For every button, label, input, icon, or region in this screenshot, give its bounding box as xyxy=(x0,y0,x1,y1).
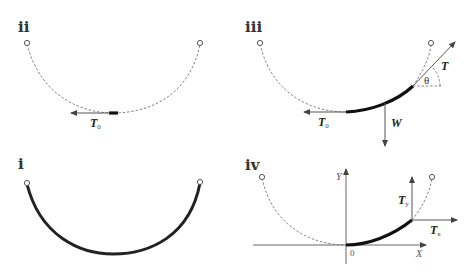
right-pivot xyxy=(197,40,202,45)
panel-iv: iv X Y 0 Ty Tx xyxy=(245,156,457,264)
chain-outline-right xyxy=(412,178,432,220)
panel-label-iv: iv xyxy=(245,156,261,174)
angle-arc xyxy=(432,67,440,86)
tension-tx-label: Tx xyxy=(430,223,441,238)
panel-label-iii: iii xyxy=(245,18,262,36)
right-pivot xyxy=(428,40,433,45)
left-pivot xyxy=(259,174,264,179)
chain-outline-left xyxy=(262,178,346,245)
chain-outline xyxy=(27,44,200,113)
panel-label-i: i xyxy=(18,155,24,173)
panel-iii: iii T0 T θ W xyxy=(245,18,455,146)
panel-ii: ii T0 xyxy=(18,18,203,131)
tension-t0-label: T0 xyxy=(90,116,101,131)
left-pivot xyxy=(24,40,29,45)
weight-w-label: W xyxy=(391,116,403,130)
catenary-diagram: ii T0 iii T0 T θ W i xyxy=(0,0,474,280)
chain-segment xyxy=(346,220,412,245)
tension-t-arrow xyxy=(413,42,455,86)
hanging-chain xyxy=(27,183,200,254)
angle-theta-label: θ xyxy=(424,74,429,86)
tension-ty-label: Ty xyxy=(398,193,409,208)
panel-label-ii: ii xyxy=(18,18,30,36)
origin-label: 0 xyxy=(350,248,355,258)
right-pivot xyxy=(429,174,434,179)
left-pivot xyxy=(24,180,29,185)
left-pivot xyxy=(257,40,262,45)
chain-outline-left xyxy=(260,44,346,112)
tension-t-label: T xyxy=(441,59,449,73)
panel-i: i xyxy=(18,155,203,254)
chain-segment xyxy=(346,86,413,112)
right-pivot xyxy=(197,179,202,184)
tension-t0-label: T0 xyxy=(318,115,329,130)
x-axis-label: X xyxy=(415,248,423,259)
y-axis-label: Y xyxy=(336,171,343,182)
